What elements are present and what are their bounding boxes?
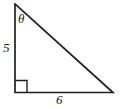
right-triangle-figure: θ 5 6 [0, 0, 121, 109]
angle-label-theta: θ [18, 12, 24, 25]
side-label-horizontal-leg: 6 [56, 93, 63, 106]
side-label-vertical-leg: 5 [3, 41, 10, 54]
right-angle-marker-icon [15, 81, 27, 93]
triangle-outline [15, 4, 113, 93]
